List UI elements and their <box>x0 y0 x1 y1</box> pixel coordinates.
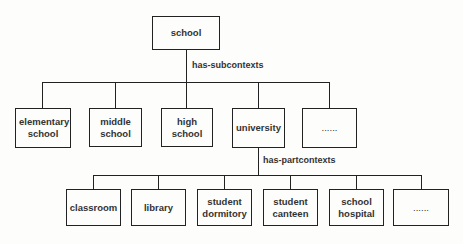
node-label: ...... <box>322 122 338 134</box>
node-label: library <box>144 202 173 214</box>
connector-l2-1 <box>158 175 159 189</box>
node-more-level1: ...... <box>302 108 357 148</box>
node-label: student dormitory <box>200 196 250 220</box>
connector-l1-1 <box>115 82 116 108</box>
node-school-hospital: school hospital <box>329 189 384 226</box>
connector-l2-2 <box>224 175 225 189</box>
node-library: library <box>131 189 186 226</box>
connector-l1-2 <box>186 82 187 108</box>
connector-l1-0 <box>42 82 43 108</box>
node-classroom: classroom <box>66 189 121 226</box>
node-label: classroom <box>70 202 118 214</box>
node-elementary-school: elementary school <box>15 108 71 148</box>
node-more-level2: ...... <box>393 189 449 226</box>
node-label: university <box>236 122 281 134</box>
connector-university-down <box>258 147 259 175</box>
node-label: ...... <box>413 202 429 214</box>
node-student-canteen: student canteen <box>263 189 318 226</box>
relation-has-partcontexts: has-partcontexts <box>263 155 336 165</box>
node-label: elementary school <box>19 116 67 140</box>
connector-l2-3 <box>290 175 291 189</box>
connector-l2-4 <box>356 175 357 189</box>
node-label: student canteen <box>269 196 313 220</box>
node-label: school <box>171 27 202 39</box>
node-student-dormitory: student dormitory <box>197 189 252 226</box>
node-high-school: high school <box>161 108 213 147</box>
connector-l1-4 <box>329 82 330 108</box>
connector-root-down <box>186 49 187 82</box>
node-label: middle school <box>96 116 136 140</box>
connector-level2-bus <box>93 175 421 176</box>
relation-has-subcontexts: has-subcontexts <box>192 60 264 70</box>
node-middle-school: middle school <box>89 108 142 147</box>
connector-l1-3 <box>258 82 259 108</box>
node-school: school <box>152 16 220 50</box>
node-university: university <box>232 108 285 148</box>
node-label: school hospital <box>335 196 379 220</box>
connector-l2-5 <box>421 175 422 189</box>
connector-l2-0 <box>93 175 94 189</box>
node-label: high school <box>167 116 207 140</box>
